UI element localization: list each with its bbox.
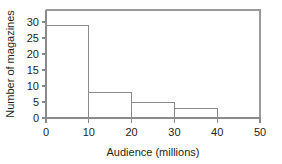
histogram-bar (174, 108, 217, 118)
y-axis-tick-labels: 0 5 10 15 20 25 30 (27, 16, 39, 124)
x-axis-tick-labels: 0 10 20 30 40 50 (43, 126, 266, 138)
x-tick-label: 40 (211, 126, 223, 138)
y-axis-title: Number of magazines (4, 10, 16, 118)
histogram-bar (132, 102, 175, 118)
x-axis-ticks (46, 118, 260, 123)
y-tick-label: 10 (27, 80, 39, 92)
x-tick-label: 20 (125, 126, 137, 138)
y-axis-ticks (42, 22, 46, 118)
y-tick-label: 25 (27, 32, 39, 44)
histogram-figure: 0 5 10 15 20 25 30 0 10 20 30 40 50 (0, 0, 282, 164)
y-tick-label: 30 (27, 16, 39, 28)
x-tick-label: 0 (43, 126, 49, 138)
y-tick-label: 0 (33, 112, 39, 124)
x-tick-label: 30 (168, 126, 180, 138)
y-tick-label: 5 (33, 96, 39, 108)
chart-canvas: 0 5 10 15 20 25 30 0 10 20 30 40 50 (0, 0, 282, 164)
histogram-bars (46, 26, 217, 118)
y-tick-label: 20 (27, 48, 39, 60)
x-axis-title: Audience (millions) (107, 146, 200, 158)
histogram-bar (89, 93, 132, 118)
histogram-bar (46, 26, 89, 118)
x-tick-label: 50 (254, 126, 266, 138)
x-tick-label: 10 (83, 126, 95, 138)
y-tick-label: 15 (27, 64, 39, 76)
